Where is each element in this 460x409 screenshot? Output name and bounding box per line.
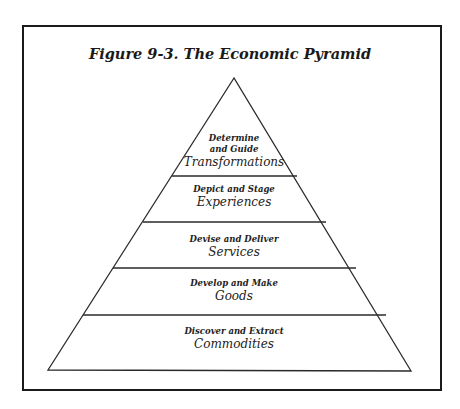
level-verb: and Guide — [134, 144, 334, 155]
level-noun: Transformations — [134, 155, 334, 169]
level-goods: Develop and Make Goods — [134, 278, 334, 303]
level-noun: Goods — [134, 289, 334, 303]
level-noun: Commodities — [134, 337, 334, 351]
level-verb: Determine — [134, 133, 334, 144]
level-verb: Depict and Stage — [134, 184, 334, 195]
level-experiences: Depict and Stage Experiences — [134, 184, 334, 209]
level-noun: Experiences — [134, 195, 334, 209]
level-verb: Discover and Extract — [134, 326, 334, 337]
level-transformations: Determine and Guide Transformations — [134, 133, 334, 169]
level-commodities: Discover and Extract Commodities — [134, 326, 334, 351]
level-verb: Devise and Deliver — [134, 234, 334, 245]
level-noun: Services — [134, 245, 334, 259]
level-verb: Develop and Make — [134, 278, 334, 289]
level-services: Devise and Deliver Services — [134, 234, 334, 259]
